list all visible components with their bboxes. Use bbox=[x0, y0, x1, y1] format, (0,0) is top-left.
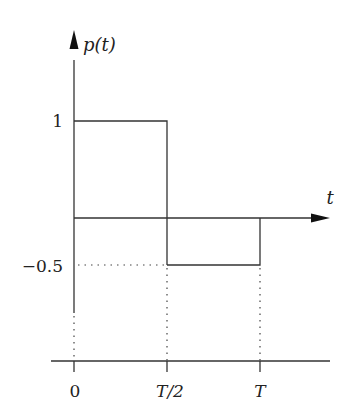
pulse-diagram: p(t) t 1 −0.5 0 T/2 T bbox=[0, 0, 352, 417]
x-tick-0: 0 bbox=[70, 381, 81, 401]
x-tick-T: T bbox=[254, 381, 267, 401]
y-axis-arrow-icon bbox=[70, 30, 79, 49]
t-axis-label: t bbox=[326, 187, 334, 208]
y-tick-1: 1 bbox=[52, 111, 63, 131]
y-axis-label: p(t) bbox=[83, 34, 116, 55]
pulse-negative-segment bbox=[167, 218, 260, 265]
y-tick-minus-half: −0.5 bbox=[22, 256, 63, 276]
t-axis-arrow-icon bbox=[311, 214, 330, 223]
x-tick-half-T: T/2 bbox=[156, 381, 184, 401]
pulse-positive-segment bbox=[74, 121, 167, 265]
